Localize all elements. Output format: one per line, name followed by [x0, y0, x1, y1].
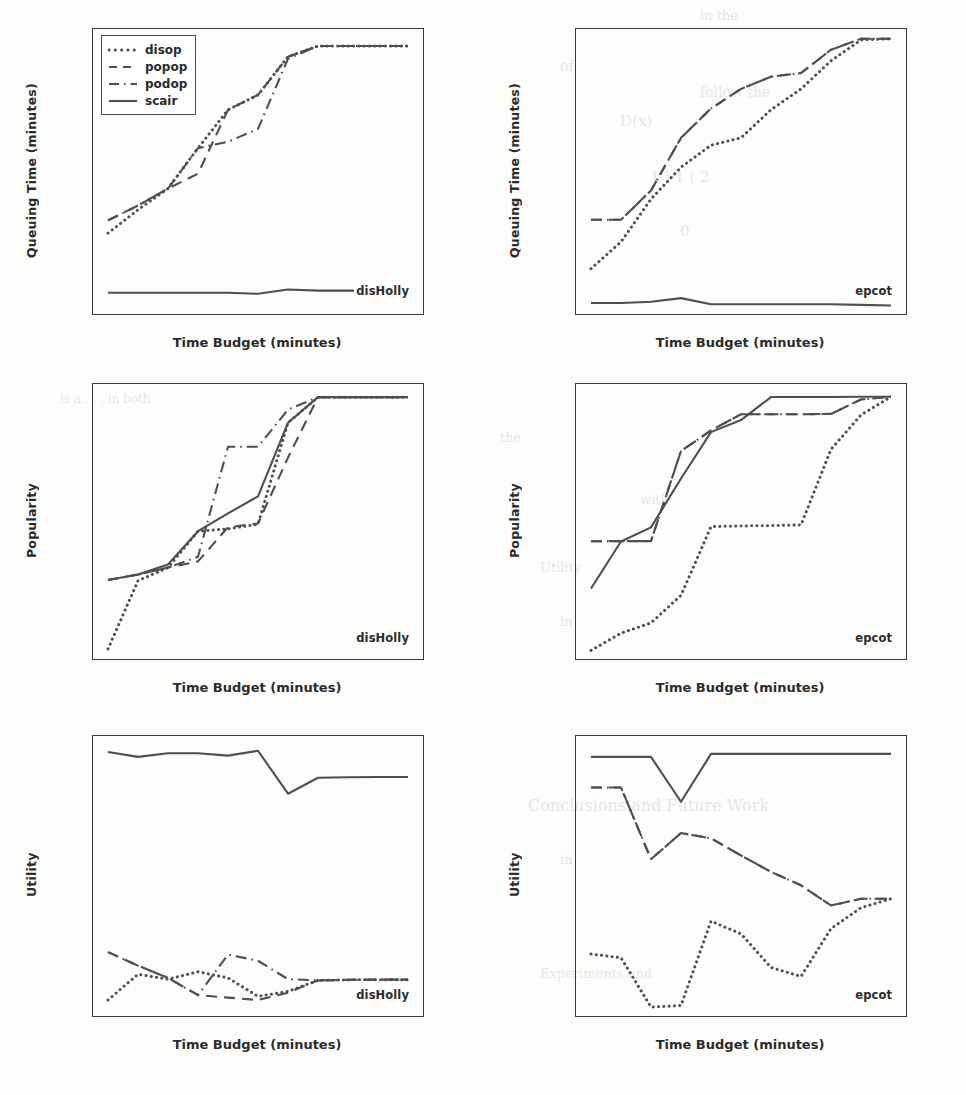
series-canvas — [93, 384, 423, 659]
series-line-popop — [591, 39, 891, 220]
series-line-disop — [591, 39, 891, 269]
x-tick-mark — [377, 314, 378, 315]
series-line-scair — [108, 397, 408, 580]
legend-line-sample-dotted — [108, 44, 138, 55]
x-axis-label: Time Budget (minutes) — [575, 1037, 905, 1052]
series-line-scair — [108, 751, 408, 794]
x-tick-mark — [167, 314, 168, 315]
figure-grid: Queuing Time (minutes)024681012609012015… — [0, 0, 966, 1095]
x-tick-mark — [287, 314, 288, 315]
x-tick-mark — [347, 659, 348, 660]
legend-item-scair[interactable]: scair — [108, 92, 187, 109]
x-tick-mark — [257, 314, 258, 315]
x-tick-mark — [407, 314, 408, 315]
series-line-popop — [108, 397, 408, 580]
x-tick-mark — [107, 1016, 108, 1017]
series-line-disop — [591, 899, 891, 1007]
series-line-popop — [591, 788, 891, 906]
x-tick-mark — [590, 659, 591, 660]
series-line-podop — [591, 397, 891, 541]
series-canvas — [576, 384, 906, 659]
legend-label: podop — [145, 77, 187, 91]
series-canvas — [576, 736, 906, 1016]
x-tick-mark — [860, 314, 861, 315]
legend-item-popop[interactable]: popop — [108, 58, 187, 75]
x-axis-label: Time Budget (minutes) — [92, 680, 422, 695]
x-tick-mark — [137, 659, 138, 660]
x-tick-mark — [620, 314, 621, 315]
x-tick-mark — [860, 659, 861, 660]
chart-queuing-disholly: Queuing Time (minutes)024681012609012015… — [0, 0, 483, 365]
series-line-podop — [591, 788, 891, 906]
x-tick-mark — [197, 1016, 198, 1017]
x-tick-mark — [830, 1016, 831, 1017]
legend-item-podop[interactable]: podop — [108, 75, 187, 92]
legend[interactable]: disoppopoppodopscair — [101, 35, 196, 115]
x-tick-mark — [167, 659, 168, 660]
chart-popularity-epcot: Popularity200003000040000500006000070000… — [483, 365, 966, 715]
x-tick-mark — [377, 1016, 378, 1017]
x-tick-mark — [830, 659, 831, 660]
x-tick-mark — [710, 314, 711, 315]
chart-cell-utility-epcot: Utility250030003500400045005000550060901… — [483, 715, 966, 1095]
legend-item-disop[interactable]: disop — [108, 41, 187, 58]
legend-label: popop — [145, 60, 187, 74]
x-tick-mark — [407, 1016, 408, 1017]
plot-annotation: epcot — [853, 988, 894, 1002]
chart-utility-disholly: Utility200040006000800010000120006090120… — [0, 715, 483, 1095]
y-axis-label: Utility — [507, 735, 522, 1015]
series-line-scair — [591, 298, 891, 305]
x-tick-mark — [227, 1016, 228, 1017]
chart-queuing-epcot: Queuing Time (minutes)510152060901201501… — [483, 0, 966, 365]
x-tick-mark — [107, 314, 108, 315]
series-line-podop — [108, 397, 408, 580]
legend-line-sample-dashed — [108, 61, 138, 72]
x-tick-mark — [197, 659, 198, 660]
x-tick-mark — [890, 1016, 891, 1017]
chart-popularity-disholly: Popularity100001500020000250003000035000… — [0, 365, 483, 715]
x-tick-mark — [227, 314, 228, 315]
x-tick-mark — [347, 314, 348, 315]
x-axis-label: Time Budget (minutes) — [575, 335, 905, 350]
chart-utility-epcot: Utility250030003500400045005000550060901… — [483, 715, 966, 1095]
x-tick-mark — [137, 1016, 138, 1017]
x-tick-mark — [800, 659, 801, 660]
series-line-scair — [591, 754, 891, 802]
chart-cell-queuing-disholly: Queuing Time (minutes)024681012609012015… — [0, 0, 483, 365]
x-tick-mark — [137, 314, 138, 315]
plot-area: 0246810126090120150180210240270300330360… — [92, 28, 424, 315]
legend-line-sample-dashdot — [108, 78, 138, 89]
x-tick-mark — [830, 314, 831, 315]
x-tick-mark — [800, 1016, 801, 1017]
x-tick-mark — [167, 1016, 168, 1017]
series-line-scair — [591, 397, 891, 589]
x-tick-mark — [680, 1016, 681, 1017]
x-tick-mark — [620, 1016, 621, 1017]
x-tick-mark — [620, 659, 621, 660]
x-tick-mark — [197, 314, 198, 315]
x-tick-mark — [770, 314, 771, 315]
x-tick-mark — [800, 314, 801, 315]
x-tick-mark — [590, 1016, 591, 1017]
legend-line-sample-solid — [108, 95, 138, 106]
x-tick-mark — [287, 1016, 288, 1017]
x-tick-mark — [890, 314, 891, 315]
series-canvas — [93, 736, 423, 1016]
x-tick-mark — [107, 659, 108, 660]
x-tick-mark — [860, 1016, 861, 1017]
x-tick-mark — [287, 659, 288, 660]
x-tick-mark — [770, 659, 771, 660]
chart-cell-utility-disholly: Utility200040006000800010000120006090120… — [0, 715, 483, 1095]
series-line-podop — [591, 39, 891, 220]
x-tick-mark — [650, 659, 651, 660]
x-tick-mark — [650, 314, 651, 315]
x-tick-mark — [770, 1016, 771, 1017]
x-tick-mark — [710, 1016, 711, 1017]
plot-area: 1000015000200002500030000350004000060901… — [92, 383, 424, 660]
x-tick-mark — [890, 659, 891, 660]
x-tick-mark — [257, 659, 258, 660]
x-tick-mark — [740, 1016, 741, 1017]
plot-annotation: epcot — [853, 284, 894, 298]
x-tick-mark — [317, 1016, 318, 1017]
chart-cell-queuing-epcot: Queuing Time (minutes)510152060901201501… — [483, 0, 966, 365]
